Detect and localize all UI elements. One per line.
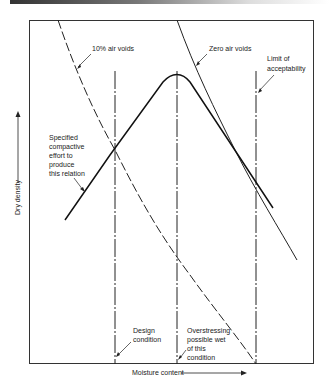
label-design-1: Design [133,327,155,335]
label-limit-1: Limit of [267,55,290,62]
label-limit-2: acceptability [267,65,306,73]
compaction-diagram: 10% air voids Zero air voids Limit of ac… [0,0,329,387]
label-compact-1: Specified [49,134,78,142]
label-over-2: possible wet [187,336,226,344]
label-zero-air-voids: Zero air voids [209,45,252,52]
label-over-1: Overstressing [187,327,230,335]
label-compact-2: compactive [49,143,85,151]
label-over-3: of this [187,345,206,352]
y-axis-label: Dry density [14,179,22,215]
label-compact-4: produce [49,161,74,169]
x-axis-label: Moisture content [132,369,184,376]
air-voids-10-curve [58,20,256,364]
label-10-air-voids: 10% air voids [92,45,135,52]
compaction-curve [65,75,273,221]
label-design-2: condition [133,336,161,343]
x-axis-arrow-icon [241,371,247,376]
label-compact-3: effort to [49,152,73,159]
label-over-4: condition [187,354,215,361]
y-axis-arrow-icon [16,111,21,117]
label-compact-5: this relation [49,170,85,177]
